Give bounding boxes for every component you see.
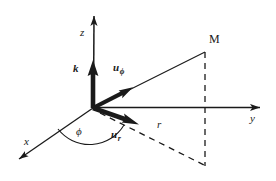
unit-vector-k-base: k xyxy=(73,62,79,74)
unit-vector-k-arrow xyxy=(88,60,99,108)
z-axis-label: z xyxy=(80,27,84,38)
diagram-canvas xyxy=(0,0,276,181)
axis-lines xyxy=(19,16,260,159)
unit-vector-u-phi-subscript: ϕ xyxy=(120,67,125,76)
point-M-label: M xyxy=(209,33,220,45)
unit-vector-k-label: k xyxy=(73,63,79,74)
y-axis-label: y xyxy=(250,113,255,124)
unit-vector-u-phi-base: u xyxy=(113,61,119,73)
unit-vector-u-phi-arrow xyxy=(93,87,133,108)
unit-vector-u-r-arrow xyxy=(93,108,139,125)
unit-vector-u-r-base: u xyxy=(111,128,117,140)
unit-vector-u-r-subscript: r xyxy=(118,134,121,143)
unit-vector-u-phi-label: uϕ xyxy=(113,62,124,76)
cylindrical-coordinates-diagram: z y x M k uϕ ur ϕ r xyxy=(0,0,276,181)
unit-vector-u-r-label: ur xyxy=(111,129,121,143)
radius-r-label: r xyxy=(157,119,161,130)
x-axis-label: x xyxy=(24,136,29,147)
angle-phi-label: ϕ xyxy=(76,126,82,137)
